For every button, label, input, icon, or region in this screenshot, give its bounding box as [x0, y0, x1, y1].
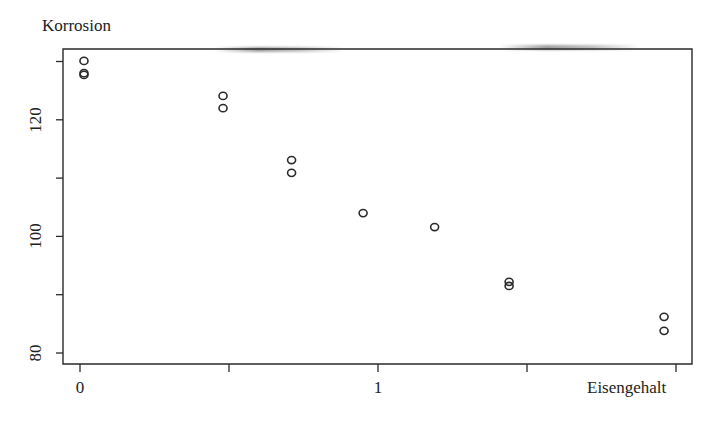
data-point — [431, 223, 439, 230]
x-tick-label: 1 — [368, 378, 388, 398]
data-point — [288, 156, 296, 163]
x-axis-title: Eisengehalt — [587, 378, 666, 398]
data-point — [660, 313, 668, 320]
y-axis-title: Korrosion — [42, 16, 111, 36]
data-point — [80, 57, 88, 64]
data-points — [80, 57, 668, 334]
data-point — [288, 169, 296, 176]
data-point — [359, 209, 367, 216]
plot-frame — [63, 49, 692, 364]
data-point — [660, 327, 668, 334]
y-axis — [56, 62, 63, 354]
scatter-plot — [0, 0, 714, 424]
y-tick-label: 100 — [26, 222, 46, 250]
data-point — [219, 92, 227, 99]
y-tick-label: 120 — [26, 106, 46, 134]
y-tick-label: 80 — [26, 339, 46, 367]
data-point — [219, 105, 227, 112]
x-axis — [80, 364, 676, 372]
x-tick-label: 0 — [70, 378, 90, 398]
